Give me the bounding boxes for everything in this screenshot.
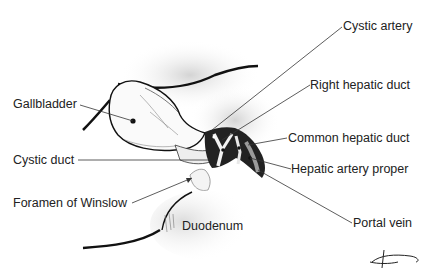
label-gallbladder: Gallbladder bbox=[13, 98, 77, 111]
liver-left-edge bbox=[83, 100, 110, 130]
label-right-hepatic-duct: Right hepatic duct bbox=[310, 79, 410, 92]
label-duodenum: Duodenum bbox=[182, 220, 243, 233]
label-cystic-duct: Cystic duct bbox=[13, 154, 74, 167]
label-foramen-of-winslow: Foramen of Winslow bbox=[13, 197, 127, 210]
label-portal-vein: Portal vein bbox=[353, 217, 412, 230]
label-cystic-artery: Cystic artery bbox=[343, 20, 412, 33]
lower-edge bbox=[83, 230, 160, 248]
anatomy-diagram: Gallbladder Cystic duct Foramen of Winsl… bbox=[0, 0, 430, 271]
label-hepatic-artery-proper: Hepatic artery proper bbox=[291, 163, 408, 176]
label-common-hepatic-duct: Common hepatic duct bbox=[288, 132, 410, 145]
artist-signature bbox=[370, 250, 418, 268]
